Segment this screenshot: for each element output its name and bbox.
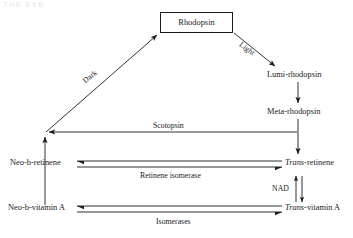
node-lumi-rhodopsin-label: Lumi-rhodopsin [267,70,321,79]
node-trans-vitamin-a[interactable]: Trans-vitamin A [285,204,340,212]
node-trans-vitamin-a-label: -vitamin A [304,203,340,212]
node-neo-b-vitamin-a-label: Neo-b-vitamin A [8,203,65,212]
edge-label-scotopsin: Scotopsin [153,122,184,130]
node-trans-retinene-label: -retinene [304,158,334,167]
edge-dark-line [46,35,157,132]
edge-label-retinene-isomerase: Retinene isomerase [140,172,201,180]
node-trans-vitamin-a-prefix: Trans [285,203,304,212]
node-neo-b-retinene[interactable]: Neo-b-retinene [10,159,61,167]
node-trans-retinene-prefix: Trans [285,158,304,167]
node-rhodopsin-label: Rhodopsin [178,18,214,27]
node-neo-b-vitamin-a[interactable]: Neo-b-vitamin A [8,204,65,212]
edge-label-nad: NAD [272,185,289,193]
edge-label-scotopsin-text: Scotopsin [153,121,184,130]
node-neo-b-retinene-label: Neo-b-retinene [10,158,61,167]
node-rhodopsin[interactable]: Rhodopsin [160,12,233,33]
edge-label-isomerases-text: Isomerases [156,217,191,226]
diagram-page: THE EYE [0,0,353,238]
edge-label-isomerases: Isomerases [156,218,191,226]
edge-label-nad-text: NAD [272,184,289,193]
node-trans-retinene[interactable]: Trans-retinene [285,159,334,167]
node-meta-rhodopsin-label: Meta-rhodopsin [267,107,321,116]
node-meta-rhodopsin[interactable]: Meta-rhodopsin [267,108,321,116]
edge-label-retinene-isomerase-text: Retinene isomerase [140,171,201,180]
node-lumi-rhodopsin[interactable]: Lumi-rhodopsin [267,71,321,79]
